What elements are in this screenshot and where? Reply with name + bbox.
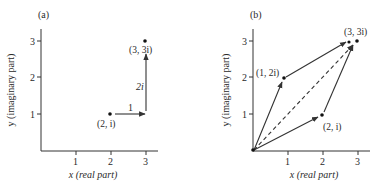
- point-3-3i-label: (3, 3i): [129, 45, 152, 56]
- point-3-3i-arrowhead: [347, 40, 350, 43]
- complex-addition-figure: (a) 1 2 3 1 2 3 x (real part) y (imagina…: [0, 0, 381, 185]
- x-ticks: 1 2 3: [73, 151, 148, 167]
- vector-2i-label: 2i: [136, 81, 144, 92]
- point-3-3i: [355, 39, 359, 43]
- y-tick-1: 1: [30, 109, 35, 120]
- point-2-i: [320, 113, 324, 117]
- x-tick-1: 1: [285, 156, 290, 167]
- vector-origin-to-2-i: [254, 117, 318, 150]
- y-tick-1: 1: [242, 109, 247, 120]
- y-tick-2: 2: [242, 72, 247, 83]
- y-tick-3: 3: [242, 36, 247, 47]
- vector-sum-dashed: [254, 45, 353, 150]
- x-axis-label: x (real part): [289, 169, 339, 181]
- point-2-i-label: (2, i): [97, 119, 115, 130]
- point-1-2i: [282, 76, 286, 80]
- point-2-i: [108, 112, 112, 116]
- y-ticks: 1 2 3: [242, 36, 253, 120]
- panel-b-label: (b): [250, 9, 262, 21]
- panel-b: (b) 1 2 3 1 2 3 x (real part) y (imagina…: [220, 9, 370, 181]
- y-axis-label: y (imaginary part): [220, 54, 232, 127]
- vector-1-2i-to-3-3i: [286, 42, 346, 77]
- y-ticks: 1 2 3: [30, 36, 41, 120]
- panel-a-label: (a): [38, 9, 49, 21]
- y-axis-label: y (imaginary part): [5, 54, 17, 127]
- vector-1-label: 1: [128, 102, 133, 113]
- x-tick-1: 1: [73, 156, 78, 167]
- x-tick-3: 3: [143, 156, 148, 167]
- vector-origin-to-1-2i: [254, 82, 282, 150]
- vector-2-i-to-3-3i: [324, 45, 353, 112]
- panel-a: (a) 1 2 3 1 2 3 x (real part) y (imagina…: [5, 9, 158, 181]
- point-3-3i: [143, 39, 147, 43]
- x-ticks: 1 2 3: [285, 151, 360, 167]
- x-tick-3: 3: [355, 156, 360, 167]
- x-tick-2: 2: [320, 156, 325, 167]
- origin-point: [251, 148, 255, 152]
- point-1-2i-label: (1, 2i): [256, 68, 279, 79]
- point-2-i-label: (2, i): [323, 122, 341, 133]
- y-tick-2: 2: [30, 72, 35, 83]
- y-tick-3: 3: [30, 36, 35, 47]
- point-3-3i-label: (3, 3i): [344, 27, 367, 38]
- x-tick-2: 2: [108, 156, 113, 167]
- x-axis-label: x (real part): [68, 169, 118, 181]
